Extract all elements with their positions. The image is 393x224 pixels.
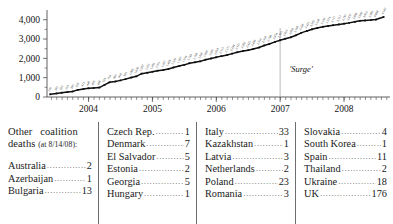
country-name: Latvia xyxy=(205,151,231,163)
series-marker xyxy=(383,16,385,18)
leader-dots: .............................. xyxy=(243,187,283,199)
leader-dots: .............................. xyxy=(146,137,184,149)
series-marker xyxy=(274,41,276,43)
country-name: Poland xyxy=(205,176,234,188)
series-marker xyxy=(77,89,79,91)
series-marker xyxy=(109,81,111,83)
table-row: Romania..............................3 xyxy=(205,188,289,200)
series-marker xyxy=(125,78,127,80)
series-marker xyxy=(199,60,201,62)
death-count: 2 xyxy=(284,163,289,175)
leader-dots: .............................. xyxy=(44,184,80,196)
series-marker xyxy=(210,58,212,60)
series-marker xyxy=(258,47,260,49)
country-name: Estonia xyxy=(107,163,138,175)
y-tick-label: 1,000 xyxy=(19,73,41,83)
data-point-label: 4,142 xyxy=(380,7,388,16)
x-tick-label: 2006 xyxy=(207,104,226,114)
table-row: UK..............................176 xyxy=(304,188,387,200)
series-marker xyxy=(56,93,58,95)
leader-dots: .............................. xyxy=(341,125,381,137)
x-tick-label: 2004 xyxy=(79,104,98,114)
table-header-line2: deaths (at 8/14/08): xyxy=(8,138,92,151)
death-count: 1 xyxy=(382,138,387,150)
series-marker xyxy=(215,56,217,58)
country-name: Georgia xyxy=(107,176,140,188)
country-name: Slovakia xyxy=(304,126,340,138)
country-name: UK xyxy=(304,188,319,200)
death-count: 176 xyxy=(372,188,387,200)
series-marker xyxy=(157,70,159,72)
series-marker xyxy=(306,30,308,32)
series-marker xyxy=(311,28,313,30)
death-count: 13 xyxy=(82,185,92,197)
death-count: 3 xyxy=(284,151,289,163)
table-header-date: (at 8/14/08): xyxy=(38,140,77,149)
series-marker xyxy=(72,91,74,93)
series-marker xyxy=(348,22,350,24)
table-row: Hungary..............................1 xyxy=(107,188,190,200)
country-name: Thailand xyxy=(304,163,341,175)
series-marker xyxy=(226,54,228,56)
death-count: 3 xyxy=(284,188,289,200)
series-marker xyxy=(370,19,372,21)
series-marker xyxy=(93,87,95,89)
series-marker xyxy=(364,20,366,22)
death-count: 1 xyxy=(185,188,190,200)
leader-dots: .............................. xyxy=(232,150,283,162)
country-name: Australia xyxy=(8,160,46,172)
series-marker xyxy=(220,55,222,57)
coalition-deaths-table: Other coalition deaths (at 8/14/08): Aus… xyxy=(0,122,393,224)
series-marker xyxy=(183,64,185,66)
series-marker xyxy=(130,77,132,79)
table-column-2-entries: Italy..............................33Kaz… xyxy=(205,126,289,200)
death-count: 2 xyxy=(87,160,92,172)
series-marker xyxy=(136,75,138,77)
series-marker xyxy=(231,53,233,55)
table-row: Bulgaria..............................13 xyxy=(8,185,92,197)
series-marker xyxy=(354,21,356,23)
series-marker xyxy=(98,87,100,89)
x-tick-label: 2008 xyxy=(335,104,354,114)
series-marker xyxy=(162,69,164,71)
series-marker xyxy=(327,25,329,27)
country-name: Denmark xyxy=(107,138,145,150)
leader-dots: .............................. xyxy=(342,162,381,174)
leader-dots: .............................. xyxy=(141,175,184,187)
series-marker xyxy=(332,24,334,26)
series-marker xyxy=(49,93,51,95)
leader-dots: .............................. xyxy=(320,187,371,199)
series-marker xyxy=(338,24,340,26)
table-column-1: Czech Rep...............................… xyxy=(98,122,196,224)
leader-dots: .............................. xyxy=(225,125,278,137)
series-marker xyxy=(359,20,361,22)
series-marker xyxy=(205,59,207,61)
leader-dots: .............................. xyxy=(155,125,183,137)
series-marker xyxy=(114,81,116,83)
series-marker xyxy=(263,45,265,47)
series-marker xyxy=(343,23,345,25)
series-marker xyxy=(151,71,153,73)
series-marker xyxy=(167,68,169,70)
death-count: 5 xyxy=(185,176,190,188)
table-column-3-entries: Slovakia..............................4S… xyxy=(304,126,387,200)
series-marker xyxy=(173,67,175,69)
series-marker xyxy=(268,43,270,45)
y-tick-label: 4,000 xyxy=(19,15,41,25)
leader-dots: .............................. xyxy=(54,172,86,184)
series-marker xyxy=(252,48,254,50)
series-marker xyxy=(322,26,324,28)
leader-dots: .............................. xyxy=(139,162,184,174)
deaths-line-chart: 01,0002,0003,0004,0002004200520062007200… xyxy=(0,0,393,118)
death-count: 1 xyxy=(185,126,190,138)
series-marker xyxy=(83,88,85,90)
country-name: Italy xyxy=(205,126,224,138)
leader-dots: .............................. xyxy=(235,175,278,187)
country-name: Romania xyxy=(205,188,242,200)
table-column-0: Other coalition deaths (at 8/14/08): Aus… xyxy=(0,122,98,224)
surge-annotation-label: 'Surge' xyxy=(290,64,313,74)
table-column-1-entries: Czech Rep...............................… xyxy=(107,126,190,200)
death-count: 18 xyxy=(377,176,387,188)
series-marker xyxy=(189,62,191,64)
leader-dots: .............................. xyxy=(156,150,184,162)
